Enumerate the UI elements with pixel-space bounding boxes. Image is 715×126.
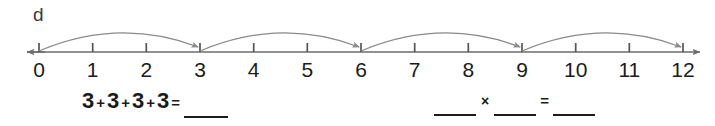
times-sign: × [478, 93, 492, 109]
tick-label-5: 5 [287, 58, 327, 82]
tick-label-9: 9 [502, 58, 542, 82]
multiplication-factor2-blank[interactable] [494, 94, 536, 116]
equals-sign-addition: = [169, 94, 182, 111]
addend-4: 3 [157, 88, 169, 113]
addend-1: 3 [82, 88, 94, 113]
tick-label-10: 10 [556, 58, 596, 82]
number-line-diagram [0, 14, 715, 62]
multiplication-equation: ×= [432, 86, 597, 116]
addend-3: 3 [132, 88, 144, 113]
plus-sign-1: + [94, 94, 107, 111]
jump-arc-3-to-6 [200, 33, 359, 51]
jump-arc-0-to-3 [39, 33, 198, 51]
tick-label-3: 3 [180, 58, 220, 82]
multiplication-product-blank[interactable] [553, 94, 595, 116]
tick-label-12: 12 [663, 58, 703, 82]
tick-label-11: 11 [609, 58, 649, 82]
tick-labels-group: 0 1 2 3 4 5 6 7 8 9 10 11 12 [0, 58, 715, 84]
tick-label-6: 6 [341, 58, 381, 82]
tick-label-7: 7 [395, 58, 435, 82]
tick-label-8: 8 [448, 58, 488, 82]
multiplication-factor1-blank[interactable] [434, 94, 476, 116]
plus-sign-3: + [144, 94, 157, 111]
number-line-worksheet-item: d [0, 0, 715, 126]
repeated-addition-equation: 3+3+3+3= [82, 86, 230, 118]
addend-2: 3 [107, 88, 119, 113]
jump-arc-9-to-12 [522, 33, 681, 51]
jump-arc-6-to-9 [361, 33, 520, 51]
jump-arcs-group [39, 33, 681, 51]
tick-label-2: 2 [126, 58, 166, 82]
tick-label-1: 1 [73, 58, 113, 82]
plus-sign-2: + [119, 94, 132, 111]
tick-label-4: 4 [234, 58, 274, 82]
addition-answer-blank[interactable] [184, 96, 228, 118]
equals-sign-multiplication: = [538, 92, 551, 109]
tick-label-0: 0 [19, 58, 59, 82]
equations-row: 3+3+3+3= ×= [0, 86, 715, 126]
